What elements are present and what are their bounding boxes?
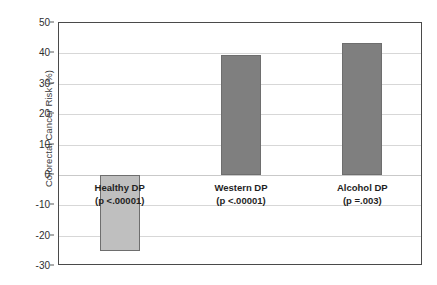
y-axis-tick-mark	[50, 265, 54, 266]
category-label-pvalue: (p <.00001)	[50, 194, 190, 207]
category-label-name: Western DP	[214, 182, 267, 193]
y-axis-tick-mark	[50, 22, 54, 23]
y-axis-tick-label: -30	[16, 260, 50, 271]
category-label: Western DP(p <.00001)	[171, 181, 311, 207]
y-axis-tick-mark	[50, 82, 54, 83]
y-axis-tick-mark	[50, 143, 54, 144]
y-axis-tick-mark	[50, 52, 54, 53]
y-axis-tick-label: 0	[16, 168, 50, 179]
y-axis-tick-label: 30	[16, 77, 50, 88]
y-axis-tick-label: -20	[16, 229, 50, 240]
category-label-pvalue: (p <.00001)	[171, 194, 311, 207]
y-axis-tick-label: 10	[16, 138, 50, 149]
y-axis-tick-mark	[50, 234, 54, 235]
y-axis-tick-mark	[50, 173, 54, 174]
category-label: Healthy DP(p <.00001)	[50, 181, 190, 207]
category-label-pvalue: (p =.003)	[292, 194, 432, 207]
category-label-name: Healthy DP	[95, 182, 145, 193]
y-axis-tick-mark	[50, 113, 54, 114]
y-axis-tick-label: -10	[16, 199, 50, 210]
y-axis-tick-label: 20	[16, 108, 50, 119]
y-axis-tick-label: 40	[16, 47, 50, 58]
category-label: Alcohol DP(p =.003)	[292, 181, 432, 207]
category-labels: Healthy DP(p <.00001)Western DP(p <.0000…	[59, 23, 421, 264]
plot-area: Healthy DP(p <.00001)Western DP(p <.0000…	[58, 22, 422, 265]
category-label-name: Alcohol DP	[337, 182, 388, 193]
chart-figure: Colorectal Cancer Risk (%) 50403020100-1…	[0, 0, 437, 285]
y-axis-tick-label: 50	[16, 17, 50, 28]
y-axis-tick-labels: 50403020100-10-20-30	[18, 22, 54, 265]
